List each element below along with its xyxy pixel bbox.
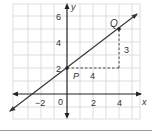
- coordinate-plane: y x 6 4 2 −2 0 2 4 P Q 4 3: [0, 0, 152, 138]
- tick-x2: 2: [91, 98, 96, 108]
- bottom-divider: [0, 130, 152, 131]
- x-axis-label: x: [141, 97, 147, 107]
- y-axis-label: y: [70, 2, 76, 12]
- point-p-label: P: [73, 71, 79, 81]
- tick-x0: 0: [58, 97, 63, 107]
- tick-y2: 2: [56, 64, 61, 74]
- rise-label: 3: [124, 45, 129, 55]
- point-p: [65, 66, 69, 70]
- run-label: 4: [90, 71, 95, 81]
- point-q-label: Q: [110, 18, 118, 29]
- axis-arrowheads: [12, 3, 142, 119]
- tick-y4: 4: [56, 38, 61, 48]
- tick-x4: 4: [117, 98, 122, 108]
- tick-y6: 6: [56, 12, 61, 22]
- tick-x-neg2: −2: [35, 98, 45, 108]
- y-axis-arrow-down-icon: [65, 113, 70, 119]
- x-axis-arrow-right-icon: [136, 92, 142, 97]
